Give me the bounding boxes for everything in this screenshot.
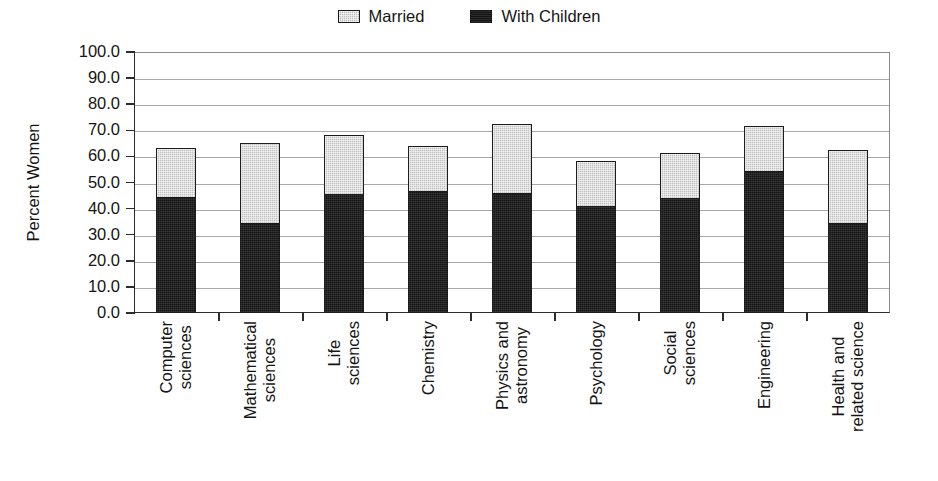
bar-group <box>660 52 700 313</box>
stacked-bar <box>576 161 616 313</box>
x-axis-label: Socialsciences <box>638 321 722 471</box>
y-axis-tick-label: 70.0 <box>48 121 120 138</box>
bar-segment-with-children <box>577 206 615 312</box>
stacked-bar <box>660 153 700 313</box>
x-axis-tick <box>806 313 808 321</box>
x-axis-tick <box>218 313 220 321</box>
x-axis-label-text: Mathematicalsciences <box>241 321 279 419</box>
x-axis-tick <box>302 313 304 321</box>
legend-swatch-married-icon <box>338 10 360 23</box>
bar-group <box>156 52 196 313</box>
x-axis-label-text: Psychology <box>587 321 606 405</box>
x-axis-label: Computersciences <box>134 321 218 471</box>
x-axis-label-text: Chemistry <box>419 321 438 395</box>
x-axis-label-text: Socialsciences <box>661 321 699 385</box>
y-axis-tick-label: 100.0 <box>48 43 120 60</box>
bar-group <box>576 52 616 313</box>
stacked-bar <box>828 150 868 313</box>
bar-segment-with-children <box>829 223 867 312</box>
x-axis-label-text: Lifesciences <box>325 321 363 385</box>
x-axis-label: Mathematicalsciences <box>218 321 302 471</box>
x-axis-label: Lifesciences <box>302 321 386 471</box>
bars-layer <box>134 52 890 313</box>
x-axis-tick <box>470 313 472 321</box>
bar-segment-married <box>661 154 699 201</box>
y-axis-tick-label: 50.0 <box>48 174 120 191</box>
stacked-bar <box>240 143 280 313</box>
y-axis-tick-label: 90.0 <box>48 69 120 86</box>
x-axis-label: Health andrelated science <box>806 321 890 471</box>
legend-entry-married: Married <box>338 8 425 25</box>
x-axis-tick <box>638 313 640 321</box>
bar-group <box>324 52 364 313</box>
x-axis-labels: ComputersciencesMathematicalsciencesLife… <box>134 321 890 471</box>
bar-group <box>492 52 532 313</box>
x-axis-tick <box>554 313 556 321</box>
chart-legend: Married With Children <box>0 8 938 25</box>
x-axis-tick <box>722 313 724 321</box>
stacked-bar <box>408 146 448 313</box>
y-axis-tick-label: 20.0 <box>48 252 120 269</box>
x-axis-label: Chemistry <box>386 321 470 471</box>
stacked-bar <box>744 126 784 313</box>
x-axis-label: Psychology <box>554 321 638 471</box>
y-axis-title: Percent Women <box>22 52 44 313</box>
bar-segment-married <box>325 136 363 197</box>
bar-segment-with-children <box>241 223 279 312</box>
y-axis-tick-label: 40.0 <box>48 200 120 217</box>
legend-entry-with-children: With Children <box>470 8 600 25</box>
bar-segment-married <box>745 127 783 174</box>
bar-group <box>744 52 784 313</box>
stacked-bar <box>156 148 196 313</box>
stacked-bar-chart: Married With Children Percent Women 100.… <box>0 0 938 481</box>
bar-segment-with-children <box>493 193 531 312</box>
bar-segment-with-children <box>409 191 447 312</box>
y-axis-tick-label: 60.0 <box>48 147 120 164</box>
x-axis-label: Engineering <box>722 321 806 471</box>
bar-segment-with-children <box>157 197 195 312</box>
bar-segment-with-children <box>325 194 363 312</box>
x-axis-label: Physics andastronomy <box>470 321 554 471</box>
bar-segment-with-children <box>745 171 783 312</box>
bar-segment-with-children <box>661 198 699 312</box>
bar-group <box>828 52 868 313</box>
legend-swatch-with-children-icon <box>470 10 492 23</box>
legend-label-married: Married <box>369 8 425 25</box>
bar-group <box>408 52 448 313</box>
bar-segment-married <box>241 144 279 226</box>
stacked-bar <box>492 124 532 313</box>
y-axis-tick-label: 30.0 <box>48 226 120 243</box>
x-axis-tick <box>386 313 388 321</box>
bar-group <box>240 52 280 313</box>
x-axis-label-text: Computersciences <box>157 321 195 393</box>
y-axis-title-text: Percent Women <box>24 124 43 242</box>
x-axis-label-text: Engineering <box>755 321 774 409</box>
stacked-bar <box>324 135 364 313</box>
legend-label-with-children: With Children <box>501 8 600 25</box>
bar-segment-married <box>493 125 531 196</box>
y-axis-tick-label: 80.0 <box>48 95 120 112</box>
bar-segment-married <box>829 151 867 226</box>
x-axis-label-text: Health andrelated science <box>829 321 867 432</box>
y-axis-tick-label: 0.0 <box>48 304 120 321</box>
y-axis-tick-label: 10.0 <box>48 278 120 295</box>
bar-segment-married <box>157 149 195 200</box>
x-axis-label-text: Physics andastronomy <box>493 321 531 410</box>
bar-segment-married <box>409 147 447 194</box>
bar-segment-married <box>577 162 615 209</box>
